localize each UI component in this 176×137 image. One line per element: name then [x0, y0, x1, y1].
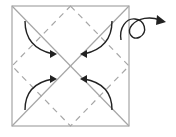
origami-diagram — [0, 0, 176, 137]
